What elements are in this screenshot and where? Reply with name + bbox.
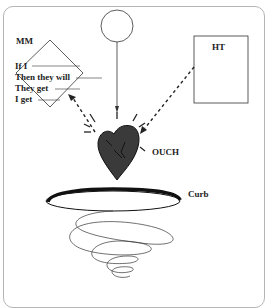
arrowhead-downleft-icon <box>140 126 147 134</box>
mm-line-4: I get <box>15 94 32 104</box>
mm-line-1: If I <box>15 61 27 71</box>
arrowhead-down-icon <box>115 106 119 113</box>
dashed-line-ht <box>145 67 194 128</box>
mm-line-3: They get <box>15 83 48 93</box>
mm-line-2: Then they will <box>15 72 70 82</box>
ht-label: HT <box>212 42 225 52</box>
ouch-label: OUCH <box>152 147 179 157</box>
mm-label: MM <box>16 36 33 46</box>
curb-label: Curb <box>188 189 209 199</box>
broken-heart-icon <box>98 125 139 180</box>
circle-shape <box>101 10 133 42</box>
dashed-arrow-line <box>73 98 95 132</box>
spiral-scribble <box>70 211 173 277</box>
